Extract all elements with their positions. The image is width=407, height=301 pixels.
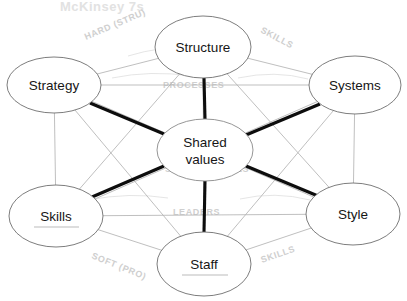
node-shared-values[interactable]: Shared values — [157, 119, 253, 181]
spoke-shared-values-staff — [204, 181, 205, 232]
node-style[interactable]: Style — [306, 183, 400, 245]
spoke-shared-values-systems — [246, 104, 320, 135]
node-shared-values-label-line1: Shared — [183, 135, 227, 150]
annotation-top-right: SKILLS — [259, 25, 295, 51]
node-style-label: Style — [338, 207, 368, 222]
node-shared-values-label-line2: values — [185, 152, 224, 167]
node-strategy[interactable]: Strategy — [7, 57, 101, 113]
annotation-arc-lower-right — [240, 195, 310, 200]
annotation-arc-lower-left — [88, 195, 168, 200]
node-systems-label: Systems — [329, 78, 381, 93]
node-shared-values-shape[interactable] — [157, 119, 253, 181]
spoke-shared-values-strategy — [90, 103, 164, 134]
node-skills[interactable]: Skills — [9, 185, 103, 247]
spoke-shared-values-skills — [92, 166, 164, 197]
node-staff-label: Staff — [190, 257, 218, 272]
spoke-shared-values-structure — [204, 78, 205, 119]
annotation-arc-upper-right — [238, 74, 308, 79]
spoke-shared-values-style — [246, 166, 318, 196]
seven-s-diagram: McKinsey 7s HARD (STRU) SKILLS PROCESSES… — [0, 0, 407, 301]
diagram-canvas: McKinsey 7s HARD (STRU) SKILLS PROCESSES… — [0, 0, 407, 301]
node-structure-label: Structure — [176, 40, 231, 55]
node-structure[interactable]: Structure — [155, 16, 251, 78]
node-skills-label: Skills — [40, 209, 72, 224]
node-staff[interactable]: Staff — [157, 232, 251, 296]
annotation-bottom-left: SOFT (PRO) — [90, 251, 148, 282]
annotation-bottom-right: SKILLS — [259, 244, 296, 265]
node-systems[interactable]: Systems — [309, 56, 401, 114]
node-strategy-label: Strategy — [29, 78, 80, 93]
